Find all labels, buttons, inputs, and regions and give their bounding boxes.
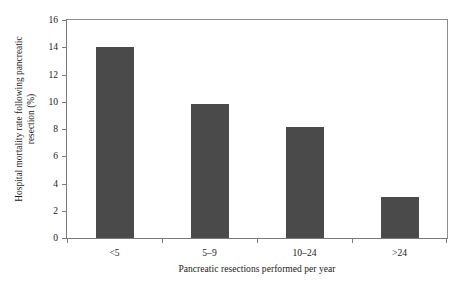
x-axis-title: Pancreatic resections performed per year: [66, 264, 448, 274]
x-axis-tick: [446, 238, 447, 243]
bar: [96, 47, 134, 238]
x-axis-category-label: 5–9: [202, 247, 216, 258]
bar-chart-figure: Hospital mortality rate following pancre…: [0, 0, 463, 288]
y-axis-tick: 6: [62, 156, 67, 157]
x-axis-tick: [162, 238, 163, 243]
y-axis-tick-label: 6: [53, 150, 58, 161]
x-axis-tick: [67, 238, 68, 243]
bar: [191, 104, 229, 238]
bar: [286, 127, 324, 238]
y-axis-tick-label: 16: [48, 14, 58, 25]
y-axis-tick: 4: [62, 184, 67, 185]
y-axis-tick-label: 2: [53, 205, 58, 216]
x-axis-tick: [352, 238, 353, 243]
plot-area: 0246810121416<55–910–24>24: [66, 19, 448, 239]
y-axis-tick: 14: [62, 47, 67, 48]
y-axis-tick-label: 4: [53, 178, 58, 189]
y-axis-title: Hospital mortality rate following pancre…: [13, 19, 43, 219]
y-axis-tick-label: 0: [53, 232, 58, 243]
x-axis-category-label: 10–24: [293, 247, 317, 258]
y-axis-tick: 12: [62, 75, 67, 76]
y-axis-tick: 2: [62, 211, 67, 212]
x-axis-category-label: >24: [392, 247, 407, 258]
y-axis-tick: 8: [62, 129, 67, 130]
y-axis-tick-label: 8: [53, 123, 58, 134]
x-axis-category-label: <5: [109, 247, 119, 258]
y-axis-tick: 16: [62, 20, 67, 21]
y-axis-tick: 10: [62, 102, 67, 103]
y-axis-tick-label: 12: [48, 69, 58, 80]
y-axis-tick-label: 10: [48, 96, 58, 107]
y-axis-tick-label: 14: [48, 41, 58, 52]
bar: [381, 197, 419, 238]
x-axis-tick: [257, 238, 258, 243]
